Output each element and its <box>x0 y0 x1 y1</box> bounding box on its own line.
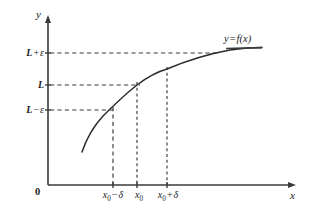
y-tick-label-L-minus-eps: L−ε <box>0 105 44 115</box>
x-tick-delta: δ <box>174 189 179 200</box>
x-tick-operator: + <box>166 189 174 200</box>
x-tick-label-x0-minus-delta: x0−δ <box>103 190 123 203</box>
curve-label-fn: f(x) <box>237 33 252 44</box>
x-tick-label-x0-plus-delta: x0+δ <box>158 190 178 203</box>
y-tick-epsilon: ε <box>40 104 44 115</box>
curve-label-leader <box>226 48 262 49</box>
y-tick-base: L <box>38 79 44 90</box>
figure-canvas <box>0 0 309 217</box>
x-tick-operator: − <box>111 189 119 200</box>
curve-label: y=f(x) <box>224 34 251 45</box>
x-tick-label-x0: x0 <box>135 190 143 203</box>
y-tick-label-L: L <box>0 80 44 90</box>
y-tick-epsilon: ε <box>40 47 44 58</box>
y-tick-label-L-plus-eps: L+ε <box>0 48 44 58</box>
horizontal-guides-group <box>45 53 218 110</box>
y-axis-label: y <box>36 9 41 20</box>
origin-label: 0 <box>35 187 40 198</box>
y-tick-operator: − <box>32 104 40 115</box>
curve-label-lhs: y <box>224 33 229 44</box>
y-axis-arrowhead <box>45 15 51 23</box>
x-axis-arrowhead <box>288 182 296 188</box>
limit-definition-figure: y x 0 L+ε L L−ε x0−δ x0 x0+δ y=f(x) <box>0 0 309 217</box>
x-tick-subscript: 0 <box>139 195 143 203</box>
x-tick-delta: δ <box>119 189 124 200</box>
x-axis-label: x <box>290 190 295 201</box>
curve-label-equals: = <box>229 33 237 44</box>
axes-group <box>45 15 296 188</box>
y-tick-operator: + <box>32 47 40 58</box>
function-curve <box>82 48 262 153</box>
